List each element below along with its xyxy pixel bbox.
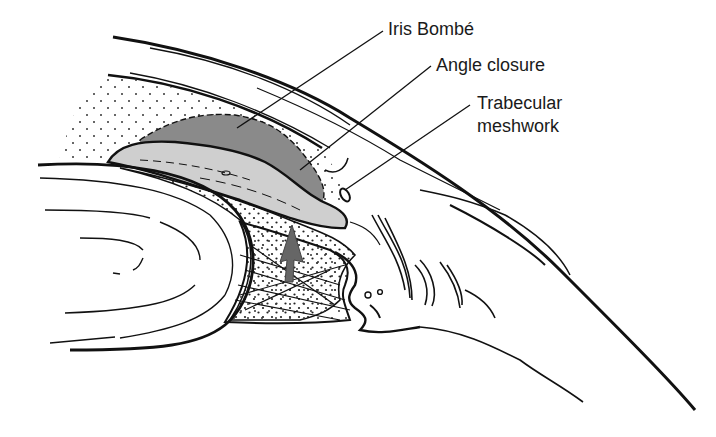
angle-region	[325, 158, 495, 332]
label-iris-bombe: Iris Bombé	[388, 18, 474, 40]
eye-angle-diagram: Iris Bombé Angle closure Trabecular mesh…	[0, 0, 716, 437]
label-trabecular-meshwork: Trabecular meshwork	[477, 92, 562, 138]
label-angle-closure: Angle closure	[436, 54, 545, 76]
leader-trabecular-meshwork	[345, 105, 470, 190]
sclera	[420, 190, 583, 402]
leader-iris-bombe	[237, 31, 383, 128]
label-trabecular-line2: meshwork	[477, 115, 562, 138]
label-trabecular-line1: Trabecular	[477, 92, 562, 115]
diagram-illustration	[0, 0, 716, 437]
